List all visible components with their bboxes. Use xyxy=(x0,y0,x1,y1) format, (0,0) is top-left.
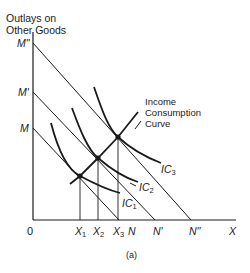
income-consumption-curve-label: Income Consumption Curve xyxy=(145,96,201,129)
icc-leader xyxy=(135,121,141,129)
tick-label-X3: X3 xyxy=(113,225,124,239)
label-IC2: IC2 xyxy=(139,181,154,195)
icc-label-line1: Income xyxy=(145,96,201,107)
tick-label-M-double-prime: M" xyxy=(17,37,29,49)
equilibrium-point-3 xyxy=(115,134,120,139)
figure-caption: (a) xyxy=(126,250,137,260)
x1-main: X xyxy=(75,225,82,237)
ic1-main: IC xyxy=(122,197,133,209)
ic2-main: IC xyxy=(139,181,150,193)
y-axis-title-line2: Other Goods xyxy=(6,24,66,36)
tick-label-N-double-prime: N'' xyxy=(189,225,201,237)
icc-label-line2: Consumption xyxy=(145,107,201,118)
ic1-sub: 1 xyxy=(133,202,137,211)
x3-sub: 3 xyxy=(120,230,124,239)
label-IC1: IC1 xyxy=(122,197,137,211)
budget-line-M2-N2 xyxy=(33,43,191,220)
ic2-leader xyxy=(130,183,136,186)
tick-label-N: N xyxy=(128,225,136,237)
x2-main: X xyxy=(93,225,100,237)
tick-label-M: M xyxy=(20,122,29,134)
ic2-sub: 2 xyxy=(150,186,154,195)
ic3-main: IC xyxy=(161,163,172,175)
tick-label-X2: X2 xyxy=(93,225,104,239)
income-consumption-diagram xyxy=(0,0,250,273)
x-axis-label: X xyxy=(229,225,236,237)
tick-label-X1: X1 xyxy=(75,225,86,239)
x1-sub: 1 xyxy=(82,230,86,239)
y-axis-title: Outlays on Other Goods xyxy=(6,12,66,36)
y-axis-title-line1: Outlays on xyxy=(6,12,66,24)
ic3-sub: 3 xyxy=(172,168,176,177)
x3-main: X xyxy=(113,225,120,237)
label-IC3: IC3 xyxy=(161,163,176,177)
tick-label-M-prime: M' xyxy=(18,86,29,98)
tick-label-N-prime: N' xyxy=(153,225,163,237)
equilibrium-point-2 xyxy=(95,155,100,160)
icc-label-line3: Curve xyxy=(145,118,201,129)
x2-sub: 2 xyxy=(100,230,104,239)
equilibrium-point-1 xyxy=(77,173,82,178)
origin-label: 0 xyxy=(27,225,33,237)
